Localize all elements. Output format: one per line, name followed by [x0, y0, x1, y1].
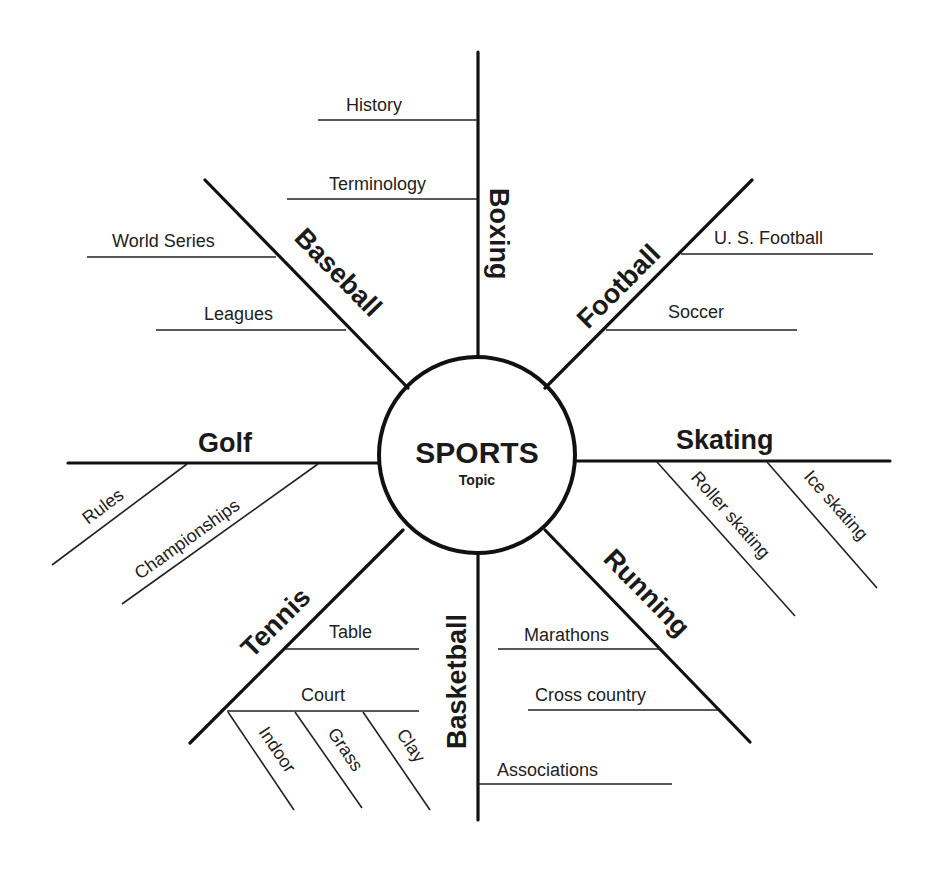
running-marathons-label: Marathons [524, 625, 609, 645]
baseball-label: Baseball [289, 222, 388, 322]
baseball-worldseries-label: World Series [112, 231, 215, 251]
baseball-leagues-label: Leagues [204, 304, 273, 324]
golf-rules-label: Rules [78, 485, 127, 529]
tennis-grass-label: Grass [324, 724, 367, 775]
football-soccer-label: Soccer [668, 302, 724, 322]
spoke-running: Running Marathons Cross country [498, 530, 750, 742]
running-label: Running [598, 543, 696, 642]
skating-label: Skating [676, 425, 774, 455]
boxing-history-label: History [346, 95, 402, 115]
basketball-associations-label: Associations [497, 760, 598, 780]
golf-championships-label: Championships [131, 495, 244, 583]
football-line [545, 180, 752, 388]
running-crosscountry-label: Cross country [535, 685, 646, 705]
spoke-tennis: Tennis Table Court Indoor Grass Clay [190, 530, 430, 810]
spoke-football: Football U. S. Football Soccer [545, 180, 873, 388]
center-subtitle: Topic [459, 472, 496, 488]
golf-championships-line [122, 464, 318, 604]
baseball-line [205, 180, 408, 388]
skating-ice-label: Ice skating [800, 466, 872, 544]
football-usfootball-label: U. S. Football [714, 228, 823, 248]
tennis-label: Tennis [235, 582, 316, 663]
tennis-indoor-label: Indoor [255, 723, 300, 777]
skating-roller-label: Roller skating [687, 467, 774, 562]
tennis-court-label: Court [301, 685, 345, 705]
football-label: Football [571, 239, 666, 335]
basketball-label: Basketball [442, 614, 472, 749]
golf-label: Golf [198, 428, 253, 458]
tennis-clay-label: Clay [393, 725, 430, 766]
boxing-terminology-label: Terminology [329, 174, 426, 194]
tennis-table-label: Table [329, 622, 372, 642]
spoke-baseball: Baseball World Series Leagues [87, 180, 408, 388]
spoke-boxing: Boxing History Terminology [287, 52, 514, 357]
center-title: SPORTS [415, 436, 538, 469]
skating-roller-line [657, 462, 795, 616]
sports-spider-map: SPORTS Topic Boxing History Terminology … [0, 0, 934, 872]
spoke-golf: Golf Rules Championships [52, 428, 379, 604]
boxing-label: Boxing [484, 188, 514, 280]
